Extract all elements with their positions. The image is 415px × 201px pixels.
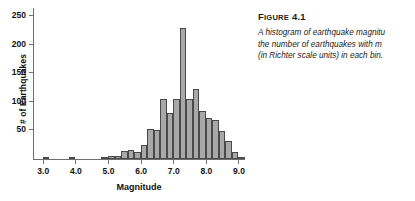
x-axis-label: Magnitude	[33, 182, 245, 192]
y-axis-line	[33, 8, 34, 160]
histogram-bar	[186, 99, 193, 159]
figure-caption-title: FIGURE 4.1	[258, 11, 415, 22]
figure-caption-number: 4.1	[289, 11, 306, 22]
y-tick-label: 150	[12, 67, 26, 77]
histogram-bar	[147, 129, 154, 159]
x-tick: 5.0	[108, 160, 109, 164]
x-tick-label: 5.0	[103, 166, 115, 176]
figure-caption-line: (in Richter scale units) in each bin.	[258, 50, 415, 62]
histogram-bar	[69, 157, 76, 159]
histogram-bar	[238, 157, 245, 159]
x-tick: 8.0	[206, 160, 207, 164]
x-tick-label: 4.0	[70, 166, 82, 176]
y-tick: 200	[29, 44, 33, 45]
histogram-bar	[173, 99, 180, 159]
y-tick: 150	[29, 72, 33, 73]
histogram-bar	[160, 99, 167, 159]
histogram-bar	[43, 157, 50, 159]
y-tick: 50	[29, 129, 33, 130]
earthquake-magnitude-histogram: # of Earthquakes 50100150200250 3.04.05.…	[0, 0, 250, 201]
x-tick: 7.0	[173, 160, 174, 164]
x-tick-label: 6.0	[135, 166, 147, 176]
y-tick-label: 250	[12, 10, 26, 20]
x-tick: 9.0	[238, 160, 239, 164]
figure-caption-label: FIGURE	[258, 11, 289, 22]
x-tick-label: 7.0	[168, 166, 180, 176]
y-tick: 250	[29, 15, 33, 16]
x-tick-label: 9.0	[233, 166, 245, 176]
figure-caption: FIGURE 4.1 A histogram of earthquake mag…	[258, 11, 415, 62]
x-tick-label: 3.0	[37, 166, 49, 176]
histogram-bar	[225, 141, 232, 159]
figure-caption-body: A histogram of earthquake magnituthe num…	[258, 27, 415, 62]
x-tick: 3.0	[43, 160, 44, 164]
x-tick: 6.0	[141, 160, 142, 164]
x-axis-line	[33, 159, 245, 160]
histogram-bar	[108, 156, 115, 159]
x-tick: 4.0	[75, 160, 76, 164]
histogram-bar	[134, 152, 141, 159]
y-tick-label: 50	[17, 124, 26, 134]
histogram-bar	[121, 151, 128, 159]
histogram-bar	[199, 111, 206, 159]
figure-container: # of Earthquakes 50100150200250 3.04.05.…	[0, 0, 415, 201]
y-tick-label: 100	[12, 96, 26, 106]
histogram-bar	[212, 120, 219, 159]
y-tick: 100	[29, 101, 33, 102]
plot-area: 50100150200250 3.04.05.06.07.08.09.0	[33, 8, 245, 160]
x-tick-label: 8.0	[200, 166, 212, 176]
figure-caption-line: the number of earthquakes with m	[258, 39, 415, 51]
y-tick-label: 200	[12, 39, 26, 49]
figure-caption-line: A histogram of earthquake magnitu	[258, 27, 415, 39]
